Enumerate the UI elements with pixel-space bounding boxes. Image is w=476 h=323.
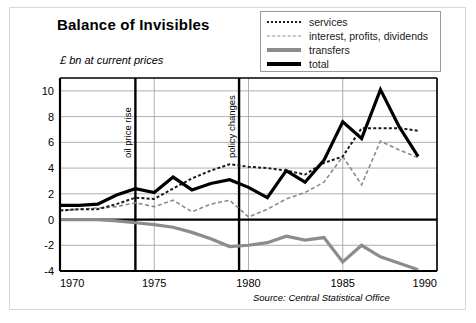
y-axis-tick-label: 8 [48, 111, 54, 123]
x-axis-tick-label: 1990 [413, 277, 437, 289]
legend-swatch-transfers-icon [267, 45, 301, 55]
legend-item-interest-profits-dividends: interest, profits, dividends [261, 29, 440, 42]
legend-item-total: total [261, 57, 440, 70]
legend-label-interest-profits-dividends: interest, profits, dividends [309, 30, 428, 42]
x-axis-tick-label: 1975 [142, 277, 166, 289]
legend-swatch-total-icon [267, 59, 301, 69]
chart-figure: Balance of Invisibles £ bn at current pr… [0, 0, 476, 323]
y-axis-tick-label: -2 [44, 239, 54, 251]
y-axis-tick-label: 10 [42, 85, 54, 97]
legend-swatch-interest-profits-dividends-icon [267, 31, 301, 41]
x-axis-tick-label: 1980 [236, 277, 260, 289]
y-axis-tick-label: 4 [48, 162, 54, 174]
y-axis-tick-label: -4 [44, 265, 54, 277]
legend-item-services: services [261, 15, 440, 28]
source-note: Source: Central Statistical Office [253, 292, 390, 303]
legend-label-transfers: transfers [309, 44, 350, 56]
annotation-label-2: policy changes [226, 95, 237, 158]
x-axis-tick-label: 1985 [331, 277, 355, 289]
legend-label-total: total [309, 58, 329, 70]
y-axis-tick-label: 0 [48, 214, 54, 226]
chart-legend: services interest, profits, dividends tr… [260, 11, 441, 72]
legend-label-services: services [309, 16, 348, 28]
x-axis-tick-label: 1970 [60, 277, 84, 289]
legend-swatch-services-icon [267, 17, 301, 27]
y-axis-tick-label: 6 [48, 136, 54, 148]
y-axis-tick-label: 2 [48, 188, 54, 200]
annotation-label-1: oil price rise [122, 107, 133, 158]
legend-item-transfers: transfers [261, 43, 440, 56]
